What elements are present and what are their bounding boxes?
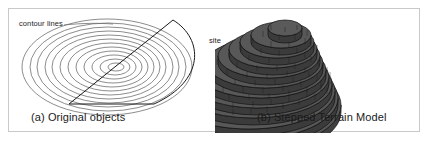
contour-lines-label: contour lines	[19, 19, 63, 28]
figure-frame: contour lines site (a) Original objects	[8, 8, 420, 132]
contour-ring	[22, 19, 192, 115]
figure-root: contour lines site (a) Original objects	[0, 0, 430, 142]
caption-panel-b: (b) Stepped Terrain Model	[257, 111, 386, 123]
site-right-arc	[154, 20, 195, 104]
panel-stepped-terrain-model: (b) Stepped Terrain Model	[215, 9, 421, 133]
site-diagonal-edge	[69, 20, 173, 104]
contour-lines-group	[22, 19, 192, 115]
caption-panel-a: (a) Original objects	[31, 111, 125, 123]
contour-ring	[52, 35, 166, 99]
contour-ring	[84, 51, 142, 83]
contour-ring	[92, 55, 136, 79]
contour-ring	[68, 43, 154, 91]
contour-ring	[108, 63, 124, 71]
contour-ring	[76, 47, 148, 87]
panel-original-objects: contour lines site (a) Original objects	[9, 9, 215, 133]
